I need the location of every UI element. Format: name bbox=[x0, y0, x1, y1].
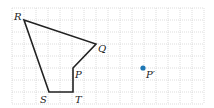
grid-diagram: RQPTS P′ bbox=[0, 0, 214, 108]
grid-lines bbox=[12, 8, 204, 104]
point-p-prime-label: P′ bbox=[145, 69, 156, 80]
vertex-label-p: P bbox=[74, 69, 82, 80]
point-p-prime bbox=[140, 65, 145, 70]
vertex-label-r: R bbox=[13, 11, 22, 22]
vertex-label-s: S bbox=[40, 94, 47, 105]
vertex-labels: RQPTS bbox=[13, 11, 106, 105]
vertex-label-t: T bbox=[75, 94, 83, 105]
vertex-label-q: Q bbox=[98, 43, 106, 54]
